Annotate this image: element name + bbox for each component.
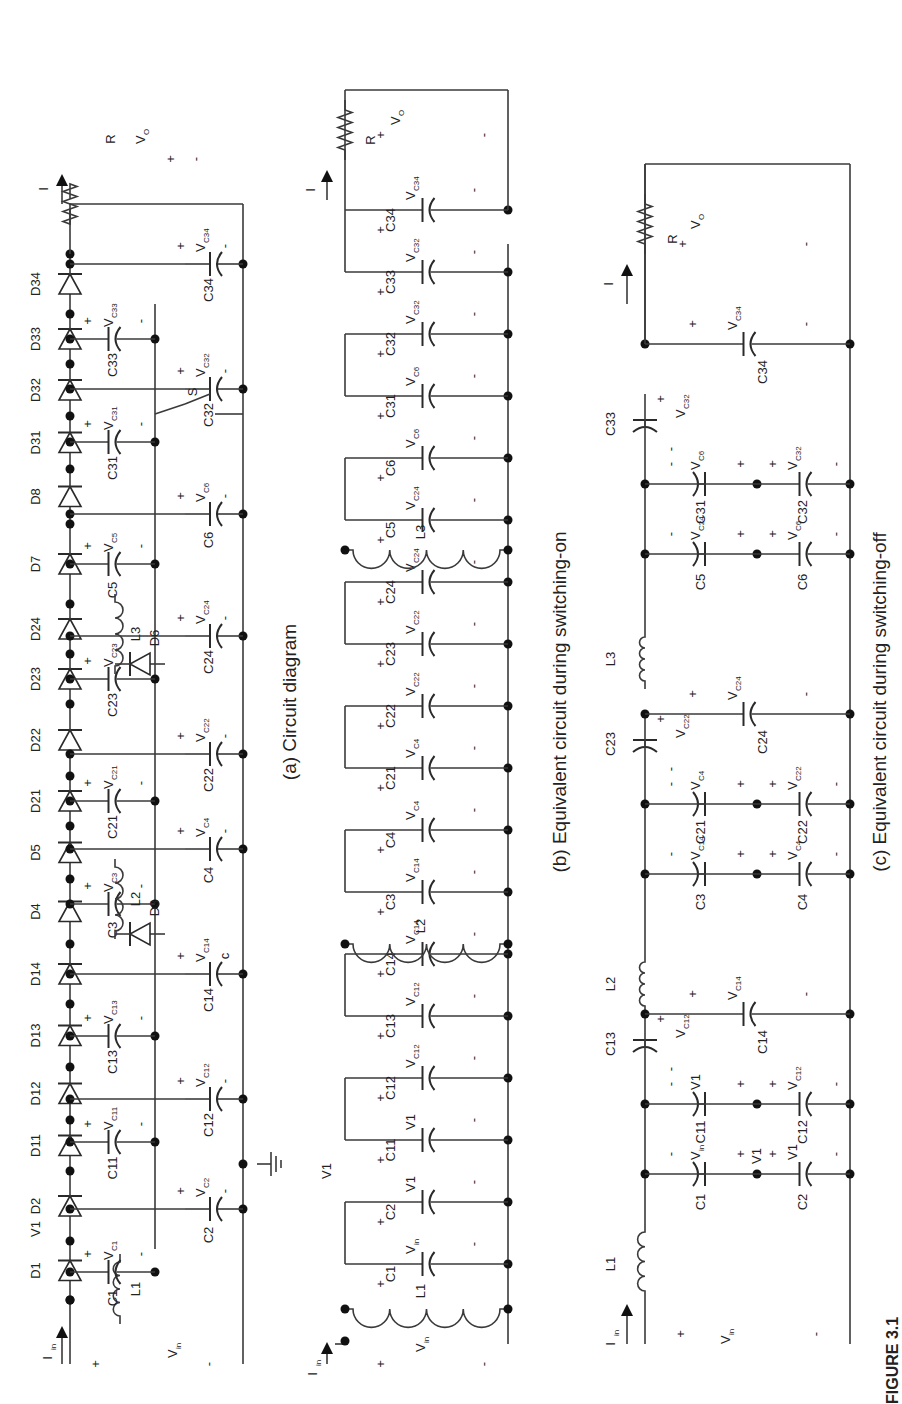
input-minus: - [476,1362,491,1366]
polarity-plus: + [173,732,188,740]
voltage-label: VC12 [785,1066,803,1090]
polarity-minus: - [466,498,481,502]
polarity-plus: + [173,614,188,622]
input-minus: - [201,1362,216,1366]
panel-a-caption: (a) Circuit diagram [279,624,300,780]
capacitor-label: C31 [105,456,120,480]
capacitor-label: C24 [201,650,216,674]
junction-dot [66,875,75,884]
junction-dot [66,310,75,319]
capacitor-C14 [185,962,243,986]
polarity-plus: + [373,846,388,854]
input-plus: + [373,1360,388,1368]
polarity-plus: + [733,1150,748,1158]
polarity-minus: - [466,808,481,812]
svg-text:C22: C22 [412,672,421,687]
capacitor-C34 [185,252,243,276]
capacitor-label: C33 [105,353,120,377]
polarity-minus: - [217,1079,232,1083]
node-label-v1: V1 [28,1221,43,1237]
capacitor-label: C6 [201,532,216,549]
svg-text:V: V [413,1343,428,1352]
svg-text:O: O [697,214,706,220]
polarity-plus: + [653,715,668,723]
svg-text:V: V [403,439,418,448]
svg-text:V1: V1 [688,1074,703,1090]
capacitor-label: C4 [201,867,216,884]
svg-text:C12: C12 [412,1044,421,1059]
capacitor-label: C13 [105,1050,120,1074]
inductor-label: L2 [128,892,143,906]
svg-text:V: V [688,220,703,229]
voltage-label: VC22 [785,766,803,790]
junction-dot [66,1000,75,1009]
inductor-L3 [115,594,123,674]
junction-dot [239,1160,248,1169]
svg-text:V: V [101,780,116,789]
svg-text:C6: C6 [412,428,421,439]
svg-text:in: in [412,1239,421,1245]
voltage-label: VC32 [785,446,803,470]
polarity-plus: + [80,542,95,550]
svg-text:V: V [725,321,740,330]
voltage-label: V1 [403,1176,418,1192]
capacitor-C14 [645,1002,850,1026]
capacitor-C1 [645,1162,757,1186]
svg-text:C32: C32 [412,238,421,253]
diode-label: D7 [28,556,43,573]
voltage-label: VC31 [101,406,119,430]
polarity-minus: - [133,1122,148,1126]
junction-dot [504,1305,513,1314]
svg-text:V1: V1 [785,1144,800,1160]
polarity-minus: - [466,1056,481,1060]
inductor-L2 [640,954,646,1014]
output-section: IVOR+- [303,110,491,200]
polarity-minus: - [466,1242,481,1246]
junction-dot [66,465,75,474]
output-current-label: I [36,187,51,191]
polarity-minus: - [466,870,481,874]
polarity-minus: - [466,1180,481,1184]
diode-label: D33 [28,327,43,351]
diode-label: D22 [28,728,43,752]
junction-dot [66,1296,75,1305]
input-plus: + [673,1330,688,1338]
svg-text:V: V [101,1121,116,1130]
capacitor-C12 [185,1087,243,1111]
svg-text:in: in [314,1360,323,1366]
svg-text:V: V [101,658,116,667]
polarity-plus: + [765,780,780,788]
polarity-plus: + [765,1150,780,1158]
capacitor-label: C6 [383,460,398,477]
polarity-minus: - [663,767,678,771]
polarity-minus: - [798,992,813,996]
voltage-label: VC4 [403,738,421,758]
polarity-plus: + [373,536,388,544]
node-label-v1: V1 [319,1163,334,1179]
svg-text:C22: C22 [794,766,803,781]
polarity-plus: + [173,827,188,835]
svg-text:C33: C33 [110,303,119,318]
svg-text:V: V [101,318,116,327]
polarity-minus: - [663,1082,678,1086]
svg-text:V: V [673,1029,688,1038]
diode-label: D6 [147,630,162,647]
svg-text:V: V [403,191,418,200]
diode-label: D1 [28,1262,43,1279]
voltage-label: VC21 [101,765,119,789]
svg-text:C4: C4 [202,817,211,828]
polarity-minus: - [217,829,232,833]
capacitor-label: C5 [693,574,708,591]
junction-dot [66,822,75,831]
inductor-label: L1 [413,1284,428,1298]
svg-text:in: in [612,1330,621,1336]
polarity-minus: - [133,1016,148,1020]
capacitor-C33 [70,327,155,351]
capacitor-C11 [70,1130,155,1154]
panel-b-caption: (b) Equivalent circuit during switching-… [549,531,570,872]
output-section: IVOR+- [601,214,813,304]
svg-text:V: V [673,409,688,418]
current-arrow-icon [621,1304,633,1344]
svg-text:V: V [785,531,800,540]
capacitor-C24 [645,702,850,726]
